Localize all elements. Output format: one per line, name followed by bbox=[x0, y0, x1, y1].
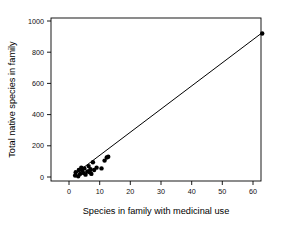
y-axis: 0 200 400 600 800 1000 Total native spec… bbox=[7, 17, 51, 182]
x-ticklabel-40: 40 bbox=[188, 187, 196, 196]
data-point bbox=[91, 160, 95, 164]
data-point bbox=[94, 165, 98, 169]
data-point bbox=[89, 172, 93, 176]
x-ticklabel-50: 50 bbox=[218, 187, 226, 196]
plot-svg: 0 200 400 600 800 1000 Total native spec… bbox=[0, 0, 291, 229]
y-ticklabel-1000: 1000 bbox=[28, 17, 44, 26]
data-point bbox=[106, 155, 110, 159]
data-point bbox=[88, 167, 92, 171]
y-ticklabel-0: 0 bbox=[40, 173, 44, 182]
y-ticklabel-200: 200 bbox=[32, 141, 44, 150]
scatter-plot-figure: 0 200 400 600 800 1000 Total native spec… bbox=[0, 0, 291, 229]
data-point bbox=[99, 166, 103, 170]
plot-frame bbox=[51, 18, 261, 181]
y-axis-title: Total native species in family bbox=[7, 41, 17, 158]
x-ticklabel-30: 30 bbox=[157, 187, 165, 196]
x-ticklabel-60: 60 bbox=[249, 187, 257, 196]
regression-line-layer bbox=[75, 33, 262, 174]
x-ticklabel-0: 0 bbox=[67, 187, 71, 196]
regression-line bbox=[75, 33, 262, 174]
x-axis: 0 10 20 30 40 50 60 Species in family wi… bbox=[67, 181, 257, 216]
y-ticklabel-800: 800 bbox=[32, 48, 44, 57]
x-axis-title: Species in family with medicinal use bbox=[83, 206, 230, 216]
data-point bbox=[260, 31, 264, 35]
x-ticklabel-20: 20 bbox=[126, 187, 134, 196]
y-ticklabel-600: 600 bbox=[32, 79, 44, 88]
data-points-layer bbox=[73, 31, 264, 178]
x-ticklabel-10: 10 bbox=[96, 187, 104, 196]
y-ticklabel-400: 400 bbox=[32, 110, 44, 119]
